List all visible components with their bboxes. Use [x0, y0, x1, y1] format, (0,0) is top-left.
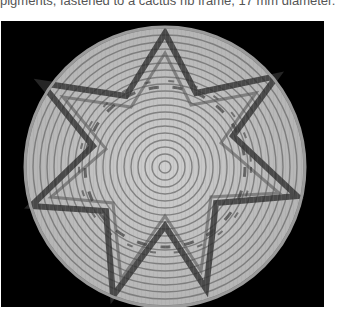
coiled-basket-image — [1, 21, 324, 307]
figure-caption: pigments, fastened to a cactus rib frame… — [0, 0, 339, 9]
basket-photo — [1, 21, 324, 307]
